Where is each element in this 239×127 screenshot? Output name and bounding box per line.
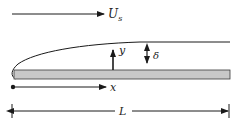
flat-plate <box>14 70 230 79</box>
freestream-label: Us <box>108 7 122 23</box>
length-label: L <box>118 105 126 118</box>
boundary-layer-diagram: Us y δ x L <box>0 0 239 127</box>
y-axis-label: y <box>118 44 126 57</box>
x-axis-label: x <box>110 81 117 94</box>
thickness-delta-label: δ <box>153 50 159 61</box>
